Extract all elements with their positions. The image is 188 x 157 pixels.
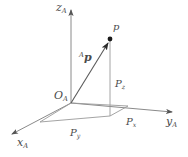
projection-y-label: Py <box>70 128 80 139</box>
origin-label: OA <box>54 90 68 103</box>
z-axis-label: zA <box>56 2 67 15</box>
z-axis-label-sub: A <box>62 7 67 15</box>
y-axis-line <box>71 103 172 112</box>
projection-x-label-sub: x <box>133 121 137 128</box>
position-vector-symbol: p <box>84 51 92 64</box>
position-vector-label: Ap <box>79 52 92 63</box>
point-p-marker <box>108 37 113 42</box>
projection-x-label-main: P <box>126 116 133 127</box>
projection-y-label-main: P <box>70 127 77 138</box>
projection-x-label: Px <box>126 117 136 128</box>
x-axis-label-sub: A <box>23 142 28 150</box>
y-axis-label: yA <box>166 116 177 129</box>
projection-y-label-sub: y <box>77 132 81 139</box>
point-p-label-text: p <box>113 21 119 32</box>
origin-label-sub: A <box>63 95 68 103</box>
x-axis-label: xA <box>17 137 28 150</box>
projection-z-label-sub: z <box>122 83 125 90</box>
y-axis-label-sub: A <box>172 121 177 129</box>
x-axis-line <box>12 103 71 134</box>
projection-z-label: Pz <box>115 79 125 90</box>
point-p-label: p <box>113 22 119 32</box>
coordinate-frame-diagram: zA xA yA OA p Ap Pz Py Px <box>0 0 188 157</box>
projection-z-label-main: P <box>115 78 122 89</box>
diagram-canvas <box>0 0 188 157</box>
origin-label-main: O <box>54 89 63 102</box>
